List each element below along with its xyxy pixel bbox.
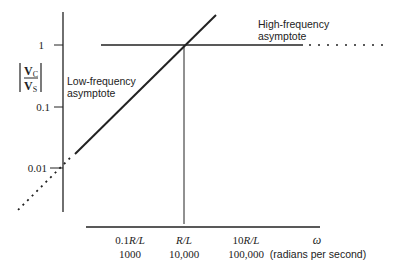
- x-tick-label-10RL: 10R/L: [233, 234, 260, 246]
- x-tick-value-100000: 100,000: [228, 248, 264, 260]
- x-axis-units: (radians per second): [270, 248, 366, 260]
- x-tick-label-RL: R/L: [175, 234, 192, 246]
- x-tick-value-10000: 10,000: [169, 248, 200, 260]
- svg-text:VS: VS: [24, 79, 37, 94]
- y-tick-label-0.1: 0.1: [36, 101, 50, 113]
- y-axis-label: VC VS: [20, 63, 41, 94]
- svg-text:VC: VC: [24, 64, 38, 79]
- low-frequency-label: Low-frequency asymptote: [67, 75, 139, 99]
- x-tick-label-0.1RL: 0.1R/L: [115, 234, 145, 246]
- y-tick-label-1: 1: [39, 39, 45, 51]
- bode-diagram: 1 0.1 0.01 VC VS 0.1R/L 1000 R/L 10,000 …: [0, 0, 394, 271]
- x-tick-value-1000: 1000: [119, 248, 142, 260]
- high-frequency-label: High-frequency asymptote: [258, 18, 332, 42]
- y-tick-label-0.01: 0.01: [28, 162, 47, 174]
- x-axis-symbol: ω: [313, 233, 321, 247]
